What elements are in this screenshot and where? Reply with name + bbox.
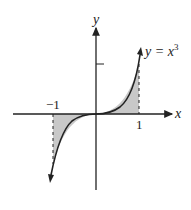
curve-label: y = x3 bbox=[145, 43, 178, 59]
cubic-graph bbox=[0, 0, 191, 210]
curve-arrow-top bbox=[137, 47, 143, 56]
x-axis-label: x bbox=[175, 107, 181, 121]
curve-label-text: y = x bbox=[145, 44, 174, 59]
y-axis-label: y bbox=[93, 13, 99, 27]
curve-arrow-bottom bbox=[48, 174, 54, 183]
tick-label-pos1: 1 bbox=[136, 118, 143, 131]
shaded-region-left bbox=[53, 114, 96, 164]
curve-label-exponent: 3 bbox=[174, 42, 179, 52]
tick-label-neg1: −1 bbox=[46, 98, 60, 111]
